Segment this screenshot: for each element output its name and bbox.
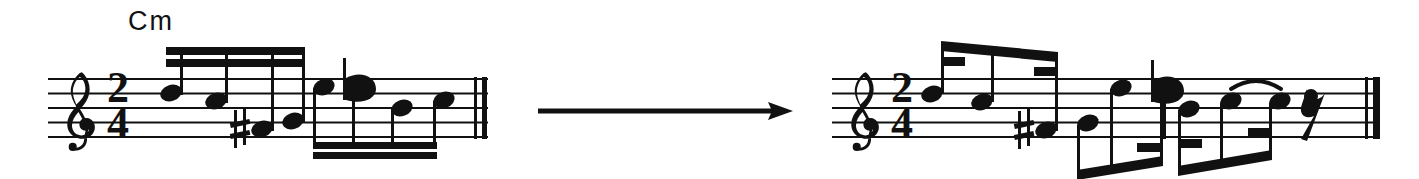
eighth-rest-icon bbox=[1301, 89, 1325, 141]
sharp-accidental-icon bbox=[1014, 108, 1035, 149]
beam-group-lower-1 bbox=[1077, 89, 1163, 179]
staff-lines bbox=[832, 79, 1380, 137]
time-signature-denominator: 4 bbox=[891, 99, 913, 148]
time-signature-denominator: 4 bbox=[107, 99, 129, 148]
right-system: 2 4 bbox=[820, 0, 1419, 179]
treble-clef-icon bbox=[67, 72, 95, 151]
left-system: Cm 2 4 bbox=[0, 0, 520, 179]
beam-group-upper bbox=[941, 41, 1058, 131]
chord-symbol-cm: Cm bbox=[128, 6, 174, 37]
left-staff-graphic: 2 4 bbox=[0, 0, 520, 179]
interior-barline bbox=[1163, 77, 1166, 139]
sharp-accidental-icon bbox=[230, 107, 251, 148]
tie-slur bbox=[1231, 81, 1281, 89]
score-figure: Cm 2 4 bbox=[0, 0, 1419, 179]
flat-accidental-icon bbox=[343, 58, 376, 102]
flat-accidental-icon bbox=[1151, 60, 1184, 104]
treble-clef-icon bbox=[851, 72, 879, 151]
right-staff-graphic: 2 4 bbox=[820, 0, 1419, 179]
transformation-arrow bbox=[520, 0, 820, 179]
